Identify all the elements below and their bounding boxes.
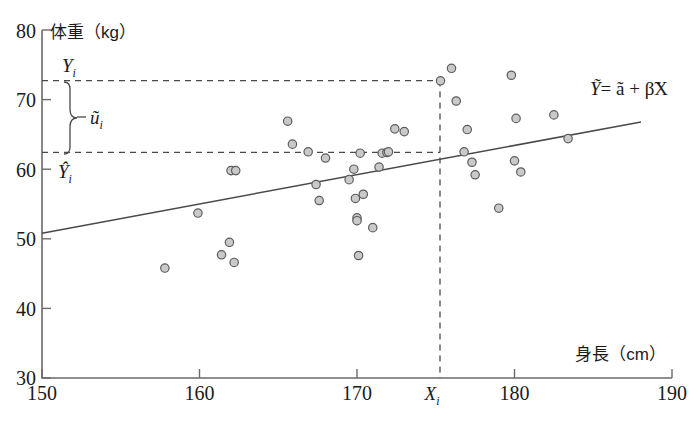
data-point — [495, 204, 503, 212]
data-point — [400, 127, 408, 135]
data-point — [350, 165, 358, 173]
data-point — [161, 264, 169, 272]
x-axis-title: 身長（cm） — [575, 345, 666, 364]
data-point — [354, 251, 362, 259]
data-point — [284, 117, 292, 125]
y-axis-title: 体重（kg） — [50, 23, 136, 42]
y-tick-label-50: 50 — [16, 228, 36, 250]
observed-value-label: Yi — [62, 55, 76, 80]
x-marker-label: Xi — [424, 383, 440, 408]
data-point — [359, 190, 367, 198]
data-point — [225, 238, 233, 246]
residual-brace — [64, 82, 86, 154]
residual-label: ũi — [90, 107, 103, 132]
data-point — [345, 175, 353, 183]
data-point — [507, 71, 515, 79]
y-tick-label-40: 40 — [16, 298, 36, 320]
regression-equation-label: Ỹ= ã + β̃X — [590, 78, 668, 99]
x-tick-label-190: 190 — [657, 382, 687, 404]
data-point — [452, 97, 460, 105]
data-point — [512, 114, 520, 122]
data-point — [312, 180, 320, 188]
data-point — [353, 217, 361, 225]
data-point — [217, 251, 225, 259]
data-point — [471, 171, 479, 179]
data-point — [194, 209, 202, 217]
data-point — [351, 194, 359, 202]
axes-group: 80 70 60 50 40 30 150 160 170 180 190 体重… — [16, 20, 687, 404]
data-point — [510, 157, 518, 165]
x-tick-label-180: 180 — [500, 382, 530, 404]
data-point — [315, 196, 323, 204]
data-point — [384, 148, 392, 156]
x-tick-label-170: 170 — [342, 382, 372, 404]
data-point — [230, 258, 238, 266]
data-points-layer — [161, 64, 573, 272]
data-point — [369, 223, 377, 231]
data-point — [304, 148, 312, 156]
data-point — [447, 64, 455, 72]
data-point — [375, 163, 383, 171]
x-tick-label-160: 160 — [185, 382, 215, 404]
data-point — [288, 140, 296, 148]
data-point — [564, 134, 572, 142]
y-axis-ticks — [42, 30, 51, 378]
data-point — [436, 77, 444, 85]
data-point — [321, 154, 329, 162]
x-axis-ticks — [42, 369, 672, 378]
fitted-value-label: Ŷi — [58, 161, 72, 186]
axis-lines — [42, 30, 672, 378]
data-point — [517, 168, 525, 176]
data-point — [550, 111, 558, 119]
scatter-plot-figure: 80 70 60 50 40 30 150 160 170 180 190 体重… — [0, 0, 700, 422]
regression-line — [42, 122, 641, 233]
data-point — [356, 149, 364, 157]
y-tick-label-70: 70 — [16, 89, 36, 111]
y-tick-label-80: 80 — [16, 20, 36, 42]
data-point — [232, 166, 240, 174]
data-point — [463, 125, 471, 133]
chart-canvas: 80 70 60 50 40 30 150 160 170 180 190 体重… — [0, 0, 700, 422]
data-point — [468, 158, 476, 166]
x-tick-label-150: 150 — [27, 382, 57, 404]
y-tick-label-60: 60 — [16, 159, 36, 181]
data-point — [391, 125, 399, 133]
data-point — [460, 148, 468, 156]
